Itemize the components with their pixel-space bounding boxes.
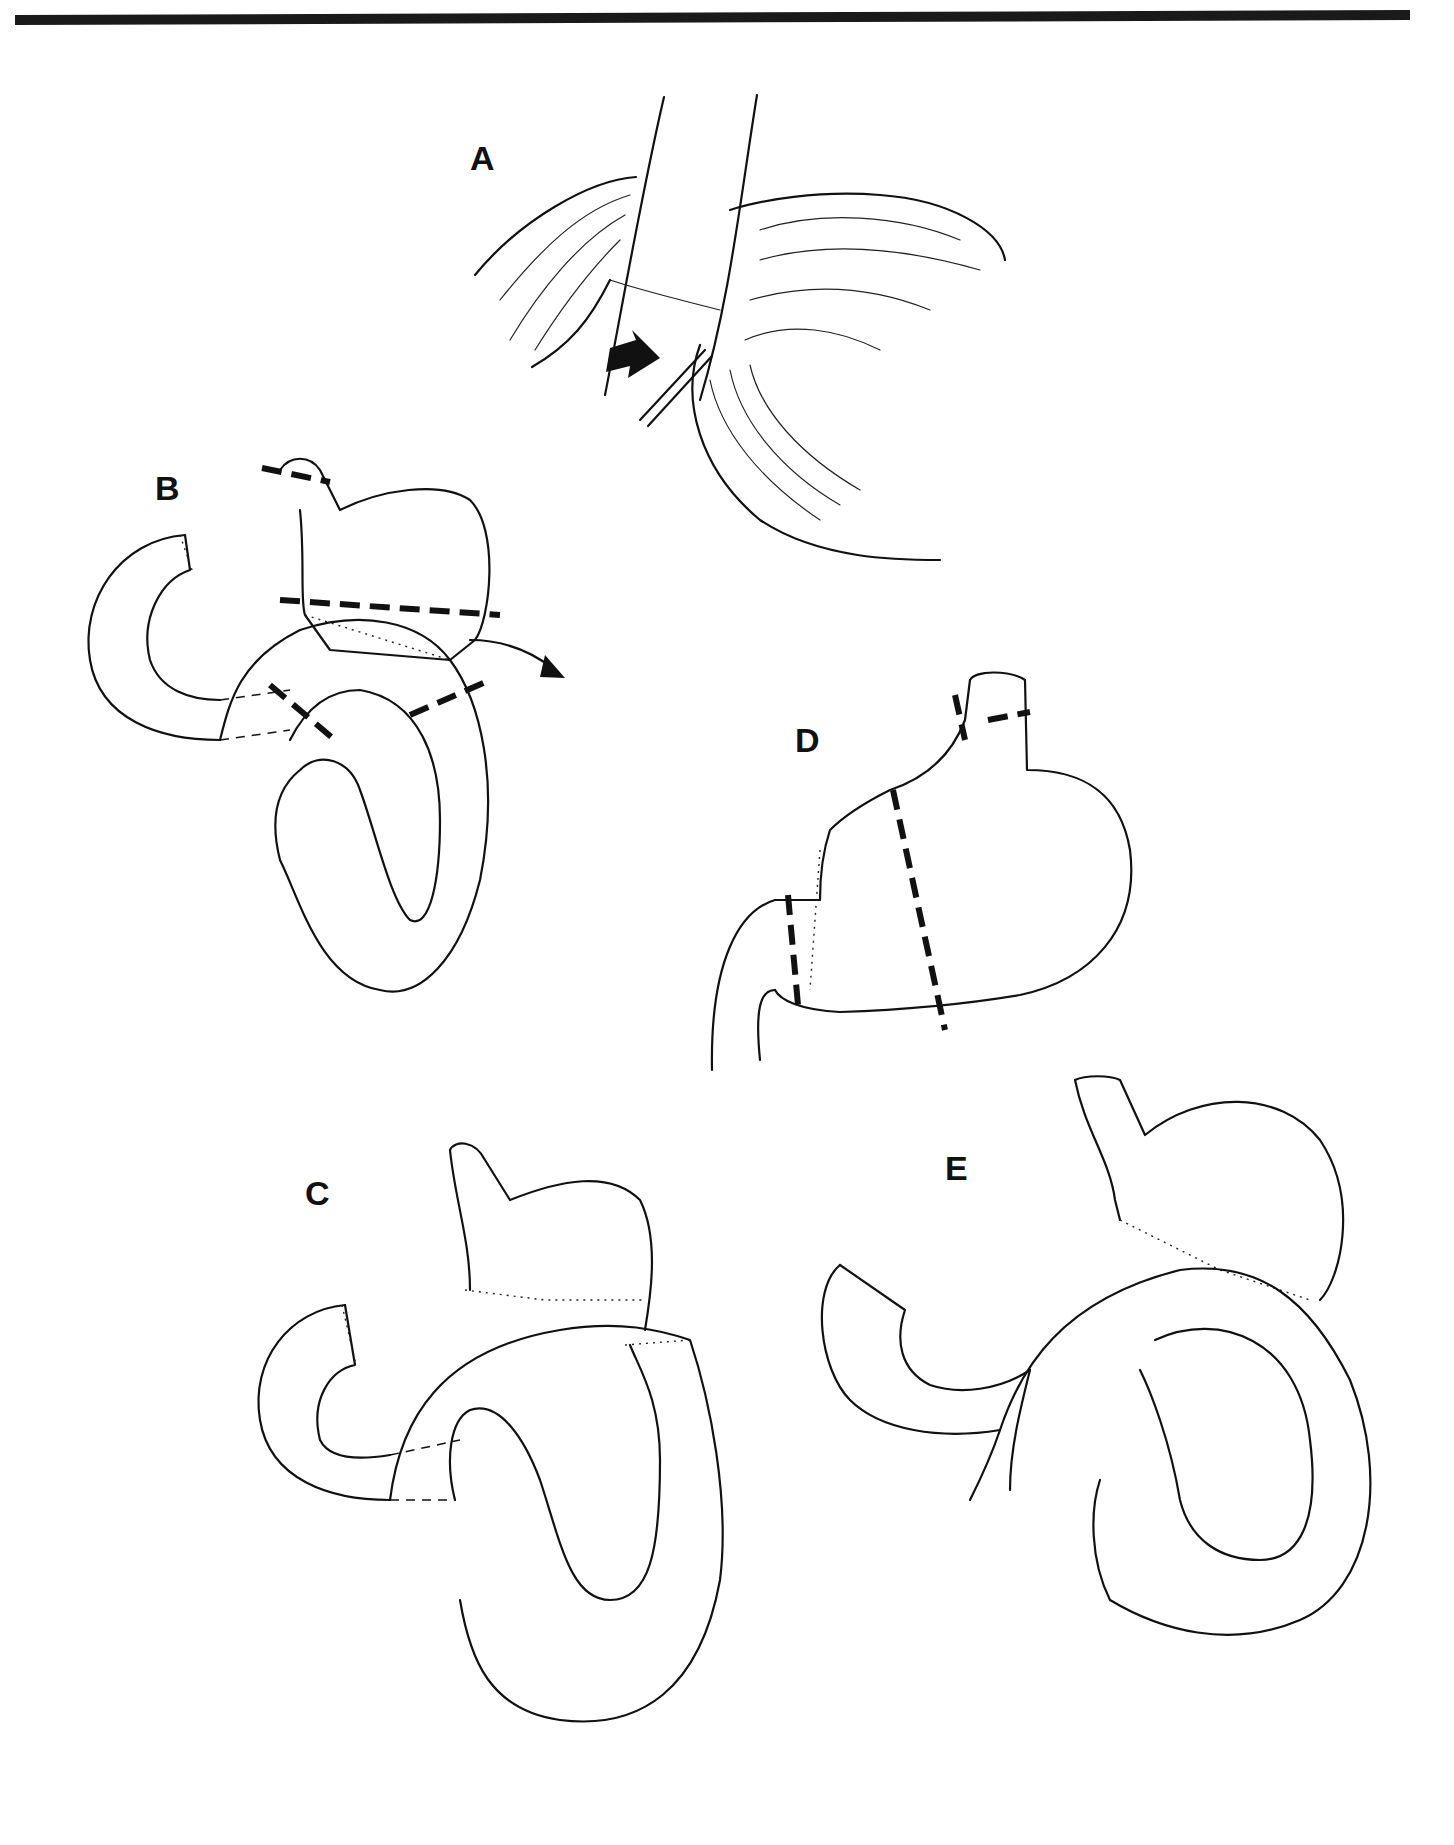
panel-c: C <box>258 1143 722 1721</box>
panel-a: A <box>470 95 1005 560</box>
panel-label-d: D <box>795 721 820 759</box>
retractor-right-edge <box>700 95 757 400</box>
top-rule <box>15 15 1410 20</box>
panel-label-c: C <box>305 1174 330 1212</box>
surgical-diagram: A B <box>0 0 1454 1845</box>
panel-d: D <box>712 673 1131 1071</box>
panel-label-e: E <box>945 1149 968 1187</box>
panel-e: E <box>822 1076 1371 1635</box>
panel-b: B <box>88 459 565 992</box>
arrow-icon <box>606 330 660 378</box>
panel-label-b: B <box>155 469 180 507</box>
panel-label-a: A <box>470 139 495 177</box>
curved-arrow-icon <box>540 655 565 678</box>
